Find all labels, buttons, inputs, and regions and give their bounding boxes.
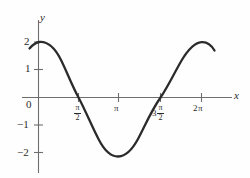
x-label-pi-over-2: π 2 [74, 104, 81, 122]
x-axis-label: x [234, 90, 239, 101]
pi-symbol: π [198, 103, 203, 113]
two-pi-coefficient: 2 [193, 104, 198, 113]
cosine-curve [30, 42, 215, 157]
fraction-numerator: π [157, 104, 163, 112]
x-label-two-pi: 2π [193, 104, 203, 113]
plot-canvas [0, 0, 250, 178]
fraction-numerator: π [74, 104, 80, 112]
fraction-denominator: 2 [158, 114, 164, 122]
y-label-neg1: −1 [17, 119, 29, 130]
three-pi-over-2-group: 3 π 2 [152, 104, 164, 122]
fraction-coefficient: 3 [152, 109, 157, 118]
y-label-neg2: −2 [17, 147, 29, 158]
graph-figure: y x 2 1 0 −1 −2 π 2 π 3 π 2 2π [0, 0, 250, 178]
x-label-pi: π [114, 104, 119, 113]
y-axis-label: y [40, 12, 45, 23]
fraction-pi-over-2: π 2 [74, 104, 81, 122]
pi-symbol: π [114, 103, 119, 113]
x-label-three-pi-over-2: 3 π 2 [152, 104, 164, 122]
y-label-1: 1 [25, 63, 31, 74]
fraction-pi-over-2-right: π 2 [157, 104, 164, 122]
y-label-2: 2 [24, 36, 30, 47]
fraction-denominator: 2 [75, 114, 81, 122]
y-label-0: 0 [26, 99, 32, 110]
